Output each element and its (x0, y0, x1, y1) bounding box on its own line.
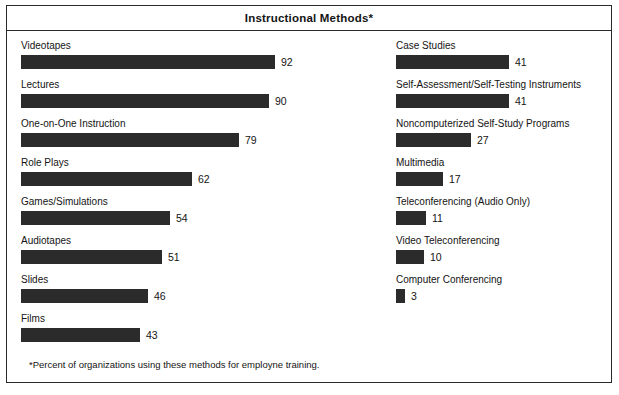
bar-label: Games/Simulations (21, 196, 108, 208)
bar-label: Multimedia (396, 157, 444, 169)
bar-value: 11 (432, 211, 443, 225)
bar-line: 10 (396, 250, 442, 264)
bar (396, 55, 509, 69)
bar-label: Videotapes (21, 40, 71, 52)
bar-value: 27 (477, 133, 489, 147)
bar-row: Self-Assessment/Self-Testing Instruments… (396, 79, 619, 118)
bar-value: 90 (275, 94, 287, 108)
bar-line: 62 (21, 172, 210, 186)
bar-value: 54 (176, 211, 188, 225)
chart-title-bar: Instructional Methods* (7, 6, 611, 31)
bar-label: Lectures (21, 79, 59, 91)
chart-figure: Instructional Methods* Videotapes92Lectu… (6, 5, 612, 383)
bar-label: Self-Assessment/Self-Testing Instruments (396, 79, 581, 91)
bar-value: 62 (198, 172, 210, 186)
bar-label: Audiotapes (21, 235, 71, 247)
bar-label: Case Studies (396, 40, 455, 52)
bar-row: Audiotapes51 (21, 235, 311, 274)
bar-value: 41 (515, 55, 527, 69)
bar (396, 250, 424, 264)
bar-value: 3 (411, 289, 417, 303)
bar-label: Slides (21, 274, 48, 286)
bar-label: One-on-One Instruction (21, 118, 126, 130)
bar-label: Computer Conferencing (396, 274, 502, 286)
bar-value: 92 (281, 55, 293, 69)
bar-line: 54 (21, 211, 188, 225)
bar (21, 172, 192, 186)
bar-line: 46 (21, 289, 166, 303)
bar-value: 41 (515, 94, 527, 108)
bar (396, 172, 443, 186)
bar (396, 133, 471, 147)
bar-line: 92 (21, 55, 293, 69)
bar-row: Teleconferencing (Audio Only)11 (396, 196, 619, 235)
bar-row: Role Plays62 (21, 157, 311, 196)
bar-line: 27 (396, 133, 489, 147)
bar-line: 41 (396, 55, 527, 69)
bar-row: Case Studies41 (396, 40, 619, 79)
bar-row: Computer Conferencing3 (396, 274, 619, 313)
bar-line: 79 (21, 133, 257, 147)
bar-line: 43 (21, 328, 158, 342)
bar-line: 90 (21, 94, 287, 108)
bar (396, 94, 509, 108)
bar-line: 41 (396, 94, 527, 108)
bar-label: Noncomputerized Self-Study Programs (396, 118, 569, 130)
bar (21, 133, 239, 147)
chart-plot-area: Videotapes92Lectures90One-on-One Instruc… (7, 31, 611, 383)
bar (21, 289, 148, 303)
bar (21, 94, 269, 108)
bar-row: Films43 (21, 313, 311, 352)
page-title: Instructional Methods* (245, 12, 373, 24)
bar-line: 17 (396, 172, 461, 186)
bar-row: Videotapes92 (21, 40, 311, 79)
bar-label: Role Plays (21, 157, 69, 169)
bar-value: 43 (146, 328, 158, 342)
bar-row: Multimedia17 (396, 157, 619, 196)
bar-row: Video Teleconferencing10 (396, 235, 619, 274)
chart-footnote: *Percent of organizations using these me… (29, 359, 319, 370)
bar-value: 51 (168, 250, 180, 264)
bar (21, 55, 275, 69)
bar-row: Slides46 (21, 274, 311, 313)
bar-row: Games/Simulations54 (21, 196, 311, 235)
bar (396, 211, 426, 225)
bar-label: Teleconferencing (Audio Only) (396, 196, 530, 208)
bar-line: 11 (396, 211, 443, 225)
bar (21, 211, 170, 225)
bar-line: 51 (21, 250, 180, 264)
bar (21, 250, 162, 264)
bar (21, 328, 140, 342)
bar-value: 17 (449, 172, 461, 186)
bar-label: Video Teleconferencing (396, 235, 500, 247)
bar-value: 46 (154, 289, 166, 303)
bar-row: Lectures90 (21, 79, 311, 118)
bar (396, 289, 405, 303)
bar-value: 10 (430, 250, 442, 264)
bar-value: 79 (245, 133, 257, 147)
bar-line: 3 (396, 289, 417, 303)
bar-row: One-on-One Instruction79 (21, 118, 311, 157)
bar-label: Films (21, 313, 45, 325)
bar-row: Noncomputerized Self-Study Programs27 (396, 118, 619, 157)
